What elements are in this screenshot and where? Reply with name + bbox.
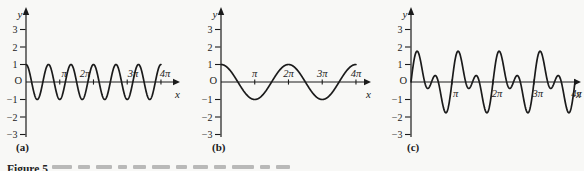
y-tick-label: −3 [202,129,213,140]
cropped-caption-text-bars [52,162,296,171]
y-tick-label: −3 [7,129,18,140]
y-tick-label: 2 [398,42,403,53]
y-axis-arrow [408,7,414,15]
y-tick-label: 1 [13,59,18,70]
y-tick-label: 3 [398,24,403,35]
y-axis-label: y [212,8,218,20]
cropped-text-fragment [52,165,72,169]
y-tick-label: 3 [208,24,213,35]
cropped-text-fragment [152,165,170,169]
cropped-text-fragment [133,165,146,169]
panel-caption-c: (c) [407,141,419,153]
cropped-text-fragment [232,165,254,169]
x-axis-arrow [173,79,180,85]
cropped-text-fragment [78,165,90,169]
cropped-text-fragment [214,165,226,169]
x-tick-label: 3π [127,68,139,79]
figure-5-wave-panels: 321−1−2−3Oyxπ2π3π4π 321−1−2−3Oyxπ2π3π4π … [0,0,584,171]
y-tick-label: −1 [202,94,213,105]
y-tick-label: −2 [202,112,213,123]
cropped-text-fragment [118,165,127,169]
origin-label: O [14,75,22,86]
figure-caption-label: Figure 5 [7,162,48,171]
y-axis-label: y [17,8,23,20]
y-tick-label: 2 [13,42,18,53]
x-tick-label: π [252,68,258,79]
x-axis-label: x [365,88,371,100]
cropped-figure-caption: Figure 5 [0,162,584,171]
y-tick-label: −3 [392,129,403,140]
cropped-text-fragment [260,165,270,169]
cropped-text-fragment [276,165,290,169]
origin-label: O [399,75,407,86]
origin-label: O [209,75,217,86]
y-tick-label: 1 [208,59,213,70]
y-tick-label: −2 [7,112,18,123]
y-axis-arrow [218,7,224,15]
y-tick-label: −1 [7,94,18,105]
y-tick-label: −2 [392,112,403,123]
y-tick-label: 2 [208,42,213,53]
x-tick-label: 2π [492,88,503,99]
x-tick-label: π [453,88,459,99]
y-axis-arrow [23,7,29,15]
x-tick-label: 4π [351,68,362,79]
panel-b-plot: 321−1−2−3Oyxπ2π3π4π [196,0,390,160]
x-axis-arrow [364,79,371,85]
y-tick-label: −1 [392,94,403,105]
cropped-text-fragment [96,165,112,169]
x-axis-label: x [174,88,180,100]
y-tick-label: 3 [13,24,18,35]
panel-caption-b: (b) [212,141,225,153]
x-tick-label: 2π [283,68,294,79]
cropped-text-fragment [193,165,208,169]
panel-a-plot: 321−1−2−3Oyxπ2π3π4π [0,0,195,160]
cropped-text-fragment [176,165,187,169]
panel-c-plot: 321−1−2−3Oyxπ2π3π4π [391,0,584,160]
x-tick-label: 3π [316,68,328,79]
x-tick-label: 4π [160,68,171,79]
y-axis-label: y [402,8,408,20]
panel-caption-a: (a) [16,141,29,153]
y-tick-label: 1 [398,59,403,70]
